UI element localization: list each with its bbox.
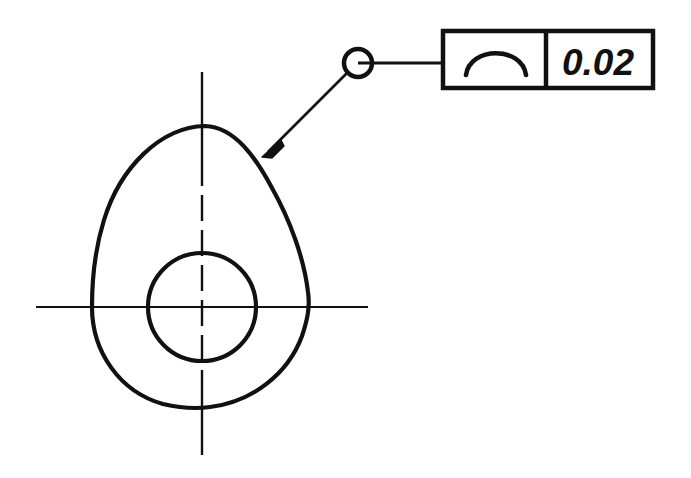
cam-plate-outline-group — [92, 126, 309, 408]
tolerance-value: 0.02 — [562, 42, 634, 83]
leader-group — [262, 49, 445, 158]
centerlines-group — [36, 72, 368, 455]
technical-drawing-canvas: 0.02 — [0, 0, 691, 478]
leader-arrowhead — [262, 140, 284, 158]
feature-control-frame[interactable]: 0.02 — [443, 31, 653, 88]
cam-plate-outline — [92, 126, 309, 408]
drawing-svg: 0.02 — [0, 0, 691, 478]
